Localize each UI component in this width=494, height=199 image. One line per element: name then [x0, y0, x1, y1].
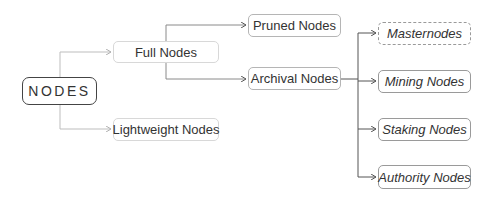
- root-node: NODES: [22, 77, 97, 105]
- authority-nodes-node: Authority Nodes: [378, 165, 471, 189]
- masternodes-node: Masternodes: [378, 22, 471, 45]
- authority-nodes-label: Authority Nodes: [378, 170, 471, 185]
- full-nodes-label: Full Nodes: [135, 45, 197, 60]
- lightweight-nodes-node: Lightweight Nodes: [113, 118, 219, 141]
- mining-nodes-node: Mining Nodes: [378, 70, 471, 93]
- full-nodes-node: Full Nodes: [113, 41, 219, 63]
- staking-nodes-node: Staking Nodes: [378, 118, 471, 141]
- mining-nodes-label: Mining Nodes: [385, 74, 465, 89]
- pruned-nodes-label: Pruned Nodes: [253, 18, 336, 33]
- archival-connectors: [341, 33, 376, 177]
- archival-nodes-node: Archival Nodes: [248, 67, 341, 90]
- staking-nodes-label: Staking Nodes: [382, 122, 467, 137]
- root-node-label: NODES: [28, 83, 90, 99]
- lightweight-nodes-label: Lightweight Nodes: [113, 122, 220, 137]
- masternodes-label: Masternodes: [387, 26, 462, 41]
- pruned-nodes-node: Pruned Nodes: [248, 14, 341, 37]
- archival-nodes-label: Archival Nodes: [251, 71, 338, 86]
